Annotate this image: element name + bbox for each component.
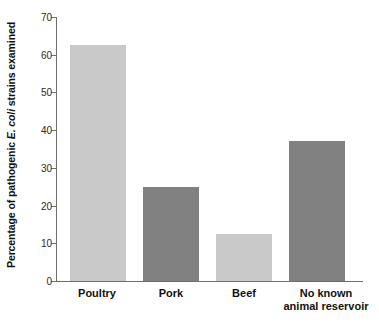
x-label-beef-line-1: Beef [232,287,256,299]
x-label-no-known-line-1: No known [300,287,353,299]
bar-beef[interactable] [216,234,272,281]
bar-poultry[interactable] [70,45,126,281]
bar-chart: Percentage of pathogenic E. coli strains… [0,0,379,322]
x-axis-line [56,281,363,282]
x-label-poultry: Poultry [56,287,138,300]
x-label-no-known-animal-reservoir: No known animal reservoir [264,287,379,313]
y-axis-title: Percentage of pathogenic E. coli strains… [0,0,22,290]
y-tick-label-60: 60 [41,49,52,60]
y-tick-label-40: 40 [41,125,52,136]
x-label-pork: Pork [130,287,212,300]
plot-area: 0 10 20 30 40 50 60 70 [56,17,363,281]
y-tick-label-30: 30 [41,162,52,173]
y-tick-label-0: 0 [46,276,52,287]
bar-pork[interactable] [143,187,199,281]
y-tick-label-20: 20 [41,200,52,211]
y-axis-title-species: E. coli [5,109,17,139]
x-label-no-known-line-2: animal reservoir [264,300,379,313]
y-tick-label-10: 10 [41,238,52,249]
y-axis-line [56,17,57,281]
y-tick-label-50: 50 [41,87,52,98]
bar-no-known-animal-reservoir[interactable] [289,141,345,281]
y-axis-title-part-2: strains examined [5,22,17,109]
y-axis-title-part-1: Percentage of pathogenic [5,139,17,268]
x-label-poultry-line-1: Poultry [78,287,116,299]
y-tick-label-70: 70 [41,12,52,23]
x-label-pork-line-1: Pork [159,287,183,299]
